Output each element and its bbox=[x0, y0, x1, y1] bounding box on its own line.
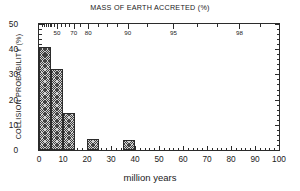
secondary-tick-label: 80 bbox=[85, 29, 92, 36]
y-tick-label: 10 bbox=[9, 120, 18, 130]
x-tick-label: 0 bbox=[37, 154, 42, 164]
figure: MASS OF EARTH ACCRETED (%) COLLISION PRO… bbox=[0, 0, 300, 191]
secondary-tick-label: 50 bbox=[54, 29, 61, 36]
x-tick-label: 10 bbox=[58, 154, 67, 164]
y-tick-label: 40 bbox=[9, 44, 18, 54]
x-tick-label: 30 bbox=[106, 154, 115, 164]
x-tick-label: 20 bbox=[82, 154, 91, 164]
y-tick-label: 0 bbox=[13, 145, 18, 155]
x-tick-label: 90 bbox=[250, 154, 259, 164]
secondary-tick-label: 98 bbox=[236, 29, 243, 36]
secondary-tick-label: 95 bbox=[170, 29, 177, 36]
secondary-tick-label: 70 bbox=[70, 29, 77, 36]
tick-labels-layer: 0102030405060708090100010203040505070809… bbox=[0, 0, 300, 191]
x-tick-label: 60 bbox=[178, 154, 187, 164]
secondary-tick-label: 90 bbox=[124, 29, 131, 36]
y-tick-label: 30 bbox=[9, 69, 18, 79]
x-tick-label: 50 bbox=[154, 154, 163, 164]
x-tick-label: 100 bbox=[272, 154, 286, 164]
x-tick-label: 80 bbox=[226, 154, 235, 164]
x-tick-label: 70 bbox=[202, 154, 211, 164]
y-tick-label: 50 bbox=[9, 19, 18, 29]
y-tick-label: 20 bbox=[9, 95, 18, 105]
x-tick-label: 40 bbox=[130, 154, 139, 164]
